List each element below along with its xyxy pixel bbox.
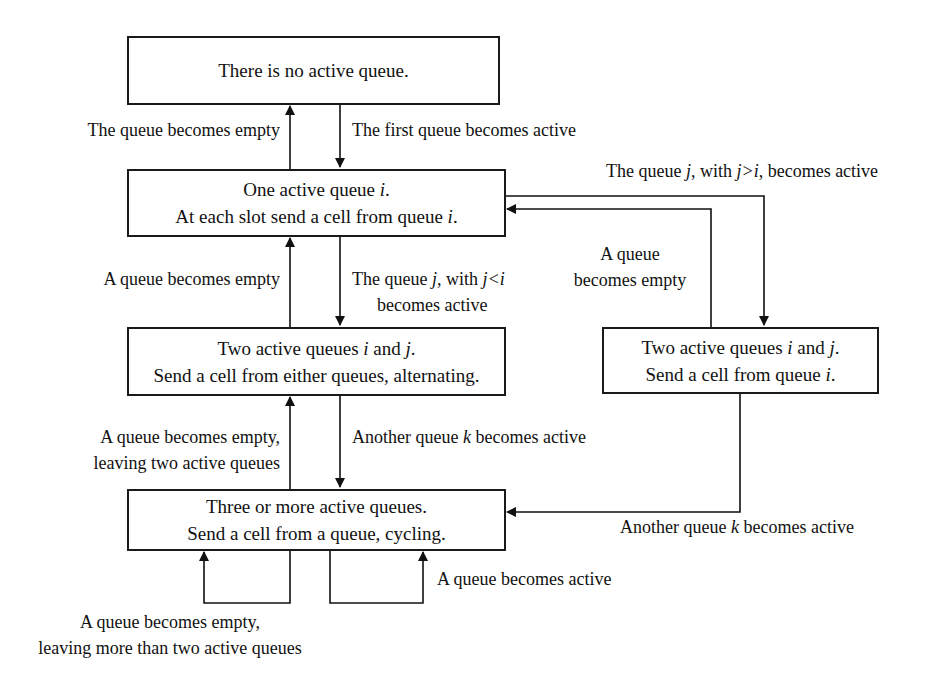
- state-no-active-queue: There is no active queue.: [127, 36, 500, 105]
- label-queue-becomes-empty-top: The queue becomes empty: [20, 117, 280, 143]
- state-label-line2: At each slot send a cell from queue i.: [175, 203, 457, 230]
- label-first-queue-active: The first queue becomes active: [352, 117, 576, 143]
- label-queue-j-greater-i: The queue j, with j>i, becomes active: [606, 158, 878, 184]
- state-three-or-more: Three or more active queues. Send a cell…: [127, 489, 506, 551]
- label-queue-j-less-i: The queue j, with j<i becomes active: [352, 266, 505, 318]
- label-another-queue-k-active: Another queue k becomes active: [352, 424, 586, 450]
- state-one-active-queue: One active queue i. At each slot send a …: [127, 169, 506, 237]
- label-empty-leaving-more-than-two: A queue becomes empty,leaving more than …: [5, 609, 335, 661]
- state-label-line1: Three or more active queues.: [206, 493, 427, 520]
- state-two-active-alternating: Two active queues i and j. Send a cell f…: [127, 327, 506, 396]
- label-a-queue-becomes-empty-right: A queuebecomes empty: [560, 241, 700, 293]
- state-label-line1: Two active queues i and j.: [641, 334, 839, 361]
- state-label: There is no active queue.: [218, 57, 408, 84]
- label-empty-leaving-two: A queue becomes empty,leaving two active…: [20, 424, 280, 476]
- label-queue-becomes-empty-mid: A queue becomes empty: [20, 266, 280, 292]
- state-label-line2: Send a cell from either queues, alternat…: [153, 362, 479, 389]
- label-queue-becomes-active-loop: A queue becomes active: [437, 566, 611, 592]
- state-label-line2: Send a cell from a queue, cycling.: [187, 520, 446, 547]
- state-label-line1: Two active queues i and j.: [217, 335, 415, 362]
- state-two-active-from-i: Two active queues i and j. Send a cell f…: [602, 327, 879, 394]
- state-label-line2: Send a cell from queue i.: [646, 361, 836, 388]
- label-another-queue-k-active-right: Another queue k becomes active: [620, 514, 854, 540]
- state-label-line1: One active queue i.: [243, 176, 390, 203]
